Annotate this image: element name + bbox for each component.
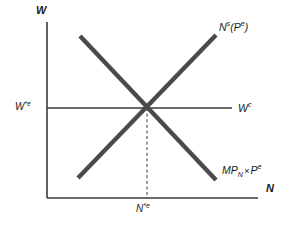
supply-label-base: N xyxy=(219,21,227,33)
x-axis-label: N xyxy=(266,183,274,194)
supply-label-arg-close: ) xyxy=(245,21,249,33)
supply-label-arg-open: (P xyxy=(230,21,241,33)
x-axis-tick-label: N*e xyxy=(136,203,150,214)
labor-demand-curve-label: MPN×Pe xyxy=(222,164,262,179)
demand-label-price: P xyxy=(251,164,258,176)
multiplication-sign: × xyxy=(243,165,251,176)
x-tick-superscript: *e xyxy=(143,202,149,209)
contract-wage-label: Wc xyxy=(238,102,251,113)
contract-wage-superscript: c xyxy=(248,101,252,109)
labor-market-figure: W N Ns(Pe) MPN×Pe Wc W*e N*e xyxy=(0,0,290,238)
demand-label-base: MP xyxy=(222,164,238,176)
y-axis-tick-label: W*e xyxy=(15,101,31,112)
y-axis-label: W xyxy=(36,5,46,16)
contract-wage-base: W xyxy=(238,102,248,114)
demand-label-price-superscript: e xyxy=(258,163,262,171)
y-tick-superscript: *e xyxy=(24,100,30,107)
labor-supply-curve-label: Ns(Pe) xyxy=(219,21,248,32)
